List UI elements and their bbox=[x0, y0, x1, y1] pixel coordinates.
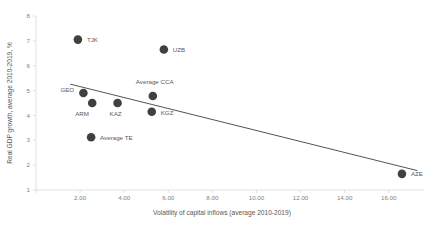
data-point-label: KAZ bbox=[110, 110, 122, 117]
x-tick-label: 2.00 bbox=[74, 194, 87, 201]
y-tick-label: 7 bbox=[27, 37, 31, 44]
trendline-segment bbox=[70, 84, 417, 171]
x-axis: 2.004.006.008.0010.0012.0014.0016.00 bbox=[36, 190, 424, 201]
x-tick-label: 16.00 bbox=[381, 194, 397, 201]
data-point-label: TJK bbox=[87, 36, 99, 43]
data-point-marker[interactable] bbox=[160, 45, 169, 54]
x-tick-label: 4.00 bbox=[118, 194, 131, 201]
y-tick-label: 2 bbox=[27, 161, 31, 168]
data-point-marker[interactable] bbox=[88, 99, 97, 108]
data-points: TJKUZBGEOARMKAZAverage CCAKGZAverage TEA… bbox=[60, 35, 423, 178]
chart-canvas: 12345678 2.004.006.008.0010.0012.0014.00… bbox=[0, 0, 431, 230]
data-point-label: AZE bbox=[411, 170, 423, 177]
scatter-chart: 12345678 2.004.006.008.0010.0012.0014.00… bbox=[0, 0, 431, 230]
x-tick-label: 14.00 bbox=[337, 194, 353, 201]
data-point-label: UZB bbox=[173, 46, 185, 53]
y-tick-label: 3 bbox=[27, 136, 31, 143]
data-point-marker[interactable] bbox=[398, 170, 407, 179]
x-tick-label: 8.00 bbox=[206, 194, 219, 201]
x-tick-label: 10.00 bbox=[249, 194, 265, 201]
y-tick-label: 5 bbox=[27, 87, 31, 94]
y-tick-label: 4 bbox=[27, 112, 31, 119]
data-point-marker[interactable] bbox=[79, 89, 88, 98]
y-tick-label: 8 bbox=[27, 12, 31, 19]
data-point-marker[interactable] bbox=[87, 133, 96, 142]
data-point-marker[interactable] bbox=[147, 107, 156, 116]
y-tick-label: 1 bbox=[27, 186, 31, 193]
data-point-marker[interactable] bbox=[149, 92, 158, 101]
x-tick-label: 12.00 bbox=[293, 194, 309, 201]
y-tick-label: 6 bbox=[27, 62, 31, 69]
data-point-marker[interactable] bbox=[74, 35, 83, 44]
data-point-label: Average TE bbox=[100, 134, 132, 141]
data-point-label: ARM bbox=[75, 110, 89, 117]
x-tick-label: 6.00 bbox=[162, 194, 175, 201]
trendline bbox=[70, 84, 417, 171]
data-point-label: KGZ bbox=[161, 109, 174, 116]
data-point-label: Average CCA bbox=[136, 78, 175, 85]
y-axis: 12345678 bbox=[27, 12, 36, 193]
data-point-marker[interactable] bbox=[113, 99, 122, 108]
data-point-label: GEO bbox=[60, 86, 74, 93]
y-axis-title: Real GDP growth, average 2010-2019, % bbox=[6, 42, 14, 164]
x-axis-title: Volatility of capital inflows (average 2… bbox=[153, 209, 291, 217]
